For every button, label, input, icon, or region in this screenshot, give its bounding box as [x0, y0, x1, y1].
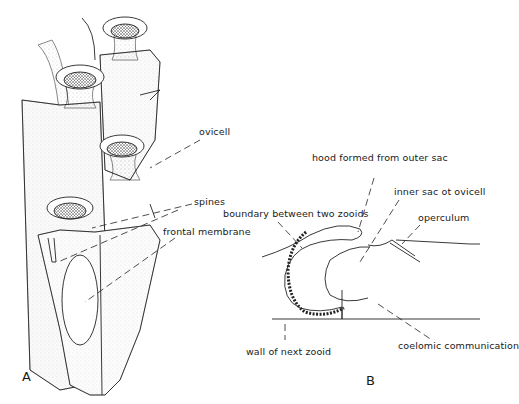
label-ovicell: ovicell: [199, 126, 230, 137]
panel-letter-b: B: [366, 373, 375, 388]
panel-letter-a: A: [22, 369, 31, 384]
label-coelomic-communication: coelomic communication: [398, 340, 519, 351]
label-inner-sac: inner sac ot ovicell: [394, 186, 485, 197]
label-operculum: operculum: [418, 212, 469, 223]
colony-drawing: [22, 17, 160, 395]
label-hood: hood formed from outer sac: [312, 152, 448, 163]
label-spines: spines: [194, 196, 225, 207]
label-wall-of-next-zooid: wall of next zooid: [246, 346, 331, 357]
label-boundary: boundary between two zooids: [223, 208, 369, 219]
label-frontal-membrane: frontal membrane: [163, 226, 251, 237]
leader-lines-b: [278, 178, 432, 340]
